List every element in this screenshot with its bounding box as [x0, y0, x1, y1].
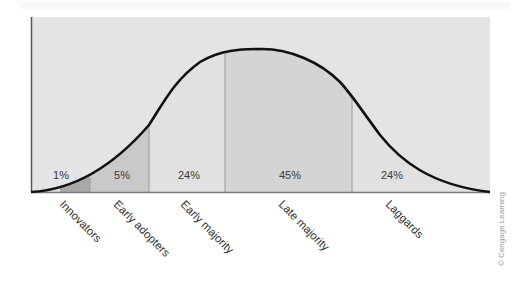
pct-early-majority: 24% — [178, 169, 200, 181]
copyright-credit: © Cengage Learning — [497, 192, 506, 266]
pct-laggards: 24% — [381, 169, 403, 181]
pct-early-adopters: 5% — [114, 169, 130, 181]
adoption-curve-chart — [0, 0, 527, 283]
pct-innovators: 1% — [53, 169, 69, 181]
pct-late-majority: 45% — [279, 169, 301, 181]
